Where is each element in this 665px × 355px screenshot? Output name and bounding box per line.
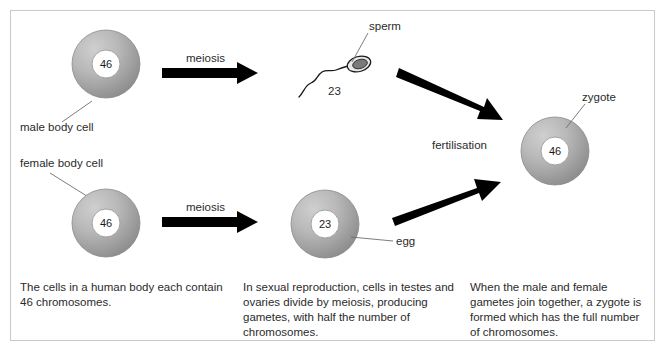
caption-right: When the male and female gametes join to… bbox=[470, 280, 650, 340]
caption-middle-container: In sexual reproduction, cells in testes … bbox=[243, 280, 458, 350]
egg-label: egg bbox=[396, 235, 415, 247]
fertilisation-arrow-from-egg bbox=[392, 179, 501, 226]
fertilisation-arrow-from-sperm bbox=[396, 68, 503, 120]
caption-left-container: The cells in a human body each contain 4… bbox=[20, 280, 230, 340]
male-body-cell-leader-line bbox=[62, 101, 92, 122]
meiosis-top-arrow bbox=[162, 62, 258, 84]
meiosis-fertilisation-diagram: 46 male body cell female body cell 46 me… bbox=[0, 0, 665, 355]
caption-middle: In sexual reproduction, cells in testes … bbox=[243, 280, 458, 340]
zygote-count: 46 bbox=[549, 145, 561, 157]
male-body-cell: 46 bbox=[72, 30, 140, 98]
meiosis-bottom-arrow bbox=[162, 211, 258, 233]
egg-cell: 23 bbox=[291, 190, 359, 258]
sperm-chromosome-count: 23 bbox=[328, 85, 341, 97]
female-body-cell-label: female body cell bbox=[20, 157, 103, 169]
zygote-label: zygote bbox=[582, 91, 616, 103]
zygote-cell: 46 bbox=[521, 117, 589, 185]
caption-left: The cells in a human body each contain 4… bbox=[20, 280, 230, 310]
fertilisation-label: fertilisation bbox=[432, 139, 487, 151]
male-body-cell-count: 46 bbox=[100, 58, 112, 70]
egg-leader-line bbox=[351, 237, 393, 241]
female-body-cell: 46 bbox=[72, 189, 140, 257]
sperm-label: sperm bbox=[369, 20, 401, 32]
diagram-canvas: 46 male body cell female body cell 46 me… bbox=[0, 0, 665, 355]
meiosis-bottom-label: meiosis bbox=[186, 201, 225, 213]
female-body-cell-count: 46 bbox=[100, 217, 112, 229]
egg-cell-count: 23 bbox=[319, 218, 331, 230]
meiosis-top-label: meiosis bbox=[186, 52, 225, 64]
male-body-cell-label: male body cell bbox=[20, 121, 94, 133]
caption-right-container: When the male and female gametes join to… bbox=[470, 280, 650, 350]
female-body-cell-leader-line bbox=[50, 173, 90, 198]
